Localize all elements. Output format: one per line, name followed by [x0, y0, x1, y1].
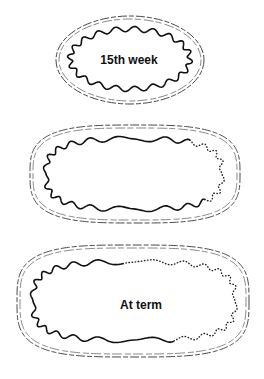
- stage-intermediate: [30, 125, 240, 223]
- diagram-canvas: 15th week At term: [0, 0, 264, 379]
- stage-label: At term: [120, 298, 162, 312]
- stage-15th-week: 15th week: [56, 16, 204, 104]
- inner-wavy-lining: [44, 136, 205, 211]
- stage-label: 15th week: [100, 53, 158, 67]
- outer-membrane-second-line: [33, 128, 237, 220]
- stage-at-term: At term: [17, 245, 249, 357]
- inner-dotted-lining: [190, 140, 225, 201]
